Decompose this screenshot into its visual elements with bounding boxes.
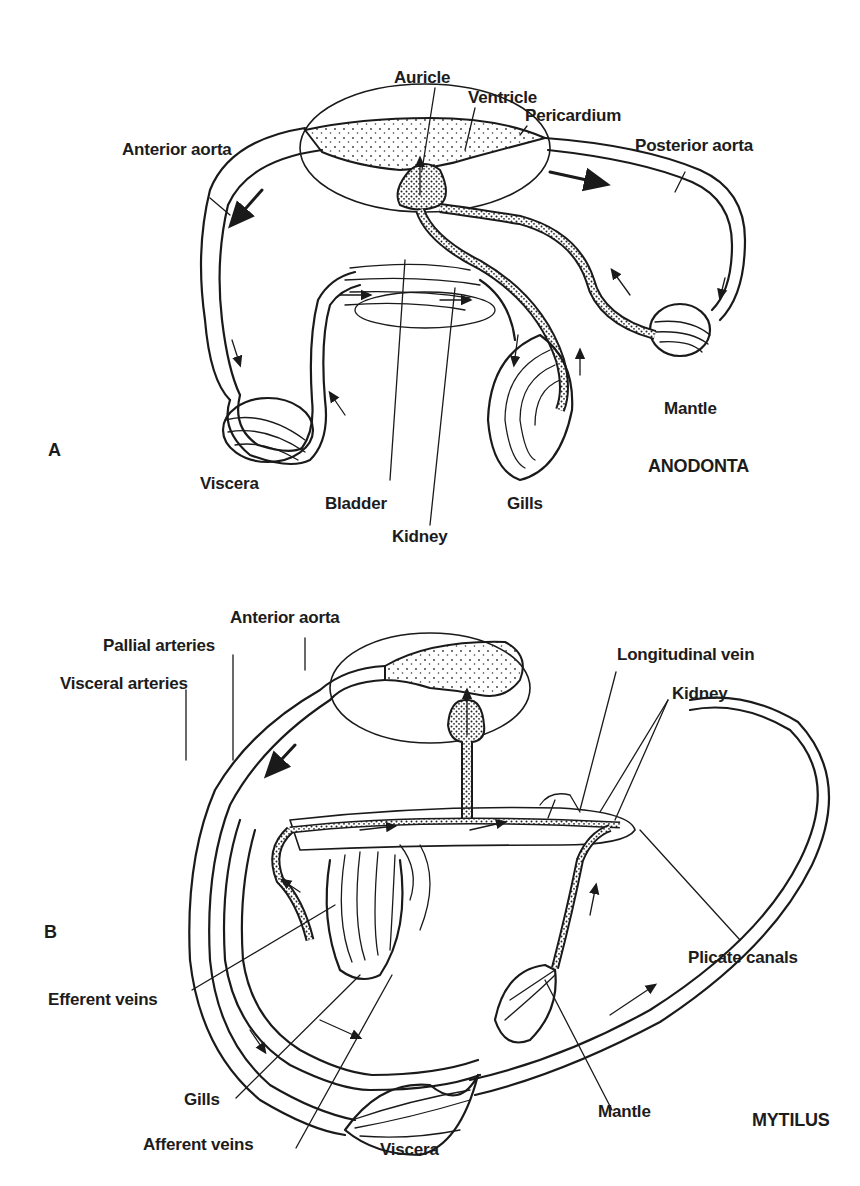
- label-afferent-veins-b: Afferent veins: [143, 1135, 254, 1155]
- label-kidney-b: Kidney: [672, 684, 727, 704]
- auricle-a: [398, 164, 446, 210]
- label-viscera-a: Viscera: [200, 474, 259, 494]
- label-posterior-aorta-a: Posterior aorta: [635, 136, 753, 156]
- label-viscera-b: Viscera: [380, 1140, 439, 1160]
- label-pericardium-a: Pericardium: [525, 106, 621, 126]
- auricle-b: [448, 700, 484, 820]
- mantle-organ-a: [650, 304, 710, 356]
- label-anterior-aorta-a: Anterior aorta: [122, 140, 232, 160]
- label-ventricle-a: Ventricle: [468, 88, 537, 108]
- organism-name-a: ANODONTA: [648, 456, 749, 477]
- label-mantle-b: Mantle: [598, 1102, 651, 1122]
- label-anterior-aorta-b: Anterior aorta: [230, 608, 340, 628]
- label-kidney-a: Kidney: [392, 527, 447, 547]
- mytilus-diagram: [186, 633, 829, 1155]
- viscera-organ-a: [223, 398, 313, 462]
- mantle-organ-b: [495, 965, 556, 1043]
- label-plicate-canals-b: Plicate canals: [688, 948, 798, 968]
- organism-name-b: MYTILUS: [752, 1110, 830, 1131]
- kidney-a: [355, 292, 495, 328]
- label-visceral-arteries-b: Visceral arteries: [60, 674, 188, 694]
- label-gills-a: Gills: [507, 494, 543, 514]
- panel-letter-a: A: [48, 440, 61, 461]
- label-gills-b: Gills: [184, 1090, 220, 1110]
- label-auricle-a: Auricle: [394, 68, 450, 88]
- gills-organ-b: [327, 860, 403, 979]
- label-bladder-a: Bladder: [325, 494, 387, 514]
- label-pallial-arteries-b: Pallial arteries: [103, 636, 215, 656]
- ventricle-a: [305, 118, 545, 170]
- ventricle-b: [385, 642, 523, 696]
- label-longitudinal-vein-b: Longitudinal vein: [617, 645, 754, 665]
- label-efferent-veins-b: Efferent veins: [48, 990, 158, 1010]
- label-mantle-a: Mantle: [664, 399, 717, 419]
- panel-letter-b: B: [44, 922, 57, 943]
